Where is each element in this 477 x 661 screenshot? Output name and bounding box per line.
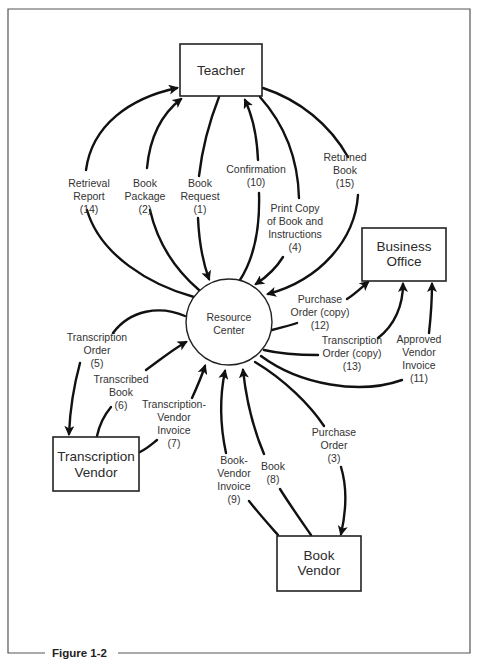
flow-book-request-upper [199,97,219,176]
svg-text:(7): (7) [168,437,181,449]
flow-transcription-order-copy-lower [264,350,318,355]
svg-text:(15): (15) [336,177,355,189]
svg-text:Purchase: Purchase [298,293,343,305]
label-returned-book: Returned Book (15) [323,151,366,189]
flow-book-request-lower [198,218,209,279]
flow-book-package-lower [150,210,199,290]
svg-text:of Book and: of Book and [267,215,323,227]
svg-text:Book: Book [109,386,134,398]
label-print-copy: Print Copy of Book and Instructions (4) [267,202,323,253]
svg-text:Book-: Book- [220,454,248,466]
label-transcribed-book: Transcribed Book (6) [93,373,148,411]
flow-book-vendor-invoice-lower [249,501,278,535]
svg-text:Order (copy): Order (copy) [291,306,350,318]
svg-text:Transcription: Transcription [322,334,382,346]
flow-approved-vendor-invoice-upper [429,284,432,333]
svg-text:Transcription: Transcription [67,331,127,343]
flow-book-upper [243,370,264,454]
svg-text:Transcribed: Transcribed [93,373,148,385]
label-book-package: Book Package (2) [125,177,166,215]
flow-transcription-vendor-invoice-lower [140,440,157,452]
svg-text:Book: Book [304,548,335,563]
svg-text:Approved: Approved [397,333,442,345]
flow-confirmation-upper [245,100,258,160]
svg-text:(14): (14) [80,203,99,215]
label-retrieval-report: Retrieval Report (14) [68,177,109,215]
flow-transcription-order-lower [69,363,80,434]
svg-text:Invoice: Invoice [217,480,250,492]
svg-text:Vendor: Vendor [75,465,118,480]
node-transcription-vendor: Transcription Vendor [53,437,139,491]
svg-text:Confirmation: Confirmation [226,163,286,175]
flow-transcribed-book-upper [146,342,186,370]
svg-text:Order (copy): Order (copy) [323,347,382,359]
node-teacher: Teacher [180,44,262,96]
flow-retrieval-report-upper [86,88,177,170]
label-confirmation: Confirmation (10) [226,163,286,188]
svg-text:(4): (4) [289,241,302,253]
label-transcription-vendor-invoice: Transcription- Vendor Invoice (7) [142,398,206,449]
svg-text:(12): (12) [311,319,330,331]
flow-book-lower [280,489,311,535]
svg-text:Transcription-: Transcription- [142,398,206,410]
svg-text:Book: Book [133,177,158,189]
flow-book-vendor-invoice-upper [221,371,226,453]
flow-transcription-vendor-invoice-upper [192,366,205,398]
svg-text:Vendor: Vendor [402,346,436,358]
svg-text:Book: Book [188,177,213,189]
svg-text:(5): (5) [91,357,104,369]
svg-text:Teacher: Teacher [197,63,246,78]
svg-text:Package: Package [125,190,166,202]
label-book-request: Book Request (1) [180,177,219,215]
svg-text:Vendor: Vendor [217,467,251,479]
flow-transcription-order-upper [113,310,185,333]
svg-text:Invoice: Invoice [157,424,190,436]
svg-text:(6): (6) [115,399,128,411]
svg-text:Purchase: Purchase [312,426,357,438]
flow-transcribed-book-lower [97,407,111,436]
node-resource-center: Resource Center [186,279,272,365]
svg-text:(10): (10) [247,176,266,188]
svg-text:Business: Business [377,239,432,254]
flow-purchase-order-lower [341,467,346,534]
flow-retrieval-report-lower [87,210,194,297]
svg-text:Office: Office [386,254,421,269]
label-approved-vendor-invoice: Approved Vendor Invoice (11) [397,333,442,384]
svg-text:Book: Book [261,460,286,472]
svg-text:Order: Order [84,344,111,356]
flow-purchase-order-copy-lower [272,323,297,330]
flow-print-copy-upper [260,97,299,198]
svg-text:(2): (2) [139,203,152,215]
svg-text:Returned: Returned [323,151,366,163]
svg-text:Report: Report [73,190,105,202]
figure-caption: Figure 1-2 [52,647,107,659]
label-purchase-order-copy: Purchase Order (copy) (12) [291,293,350,331]
svg-text:Center: Center [213,324,245,336]
flow-print-copy-lower [256,257,283,284]
svg-text:Invoice: Invoice [402,359,435,371]
flow-transcription-order-copy-upper [378,284,403,338]
svg-text:Retrieval: Retrieval [68,177,109,189]
svg-text:Transcription: Transcription [57,449,135,464]
svg-text:(8): (8) [267,473,280,485]
svg-text:(11): (11) [410,372,428,384]
data-flow-diagram: Figure 1-2 Teacher [0,0,477,661]
svg-text:Book: Book [333,164,358,176]
svg-text:Vendor: Vendor [157,411,191,423]
svg-text:Request: Request [180,190,219,202]
node-book-vendor: Book Vendor [277,536,361,591]
svg-text:(1): (1) [194,203,207,215]
svg-text:Vendor: Vendor [298,563,341,578]
label-transcription-order-copy: Transcription Order (copy) (13) [322,334,382,372]
flow-returned-book-upper [263,88,348,157]
node-business-office: Business Office [362,228,446,281]
label-book: Book (8) [261,460,286,485]
label-transcription-order: Transcription Order (5) [67,331,127,369]
svg-text:Resource: Resource [207,311,252,323]
svg-text:(9): (9) [228,493,241,505]
flow-purchase-order-copy-upper [347,282,368,299]
flow-confirmation-lower [240,193,259,280]
flow-book-package-upper [147,99,181,168]
svg-text:Print Copy: Print Copy [270,202,320,214]
svg-text:Order: Order [321,439,348,451]
